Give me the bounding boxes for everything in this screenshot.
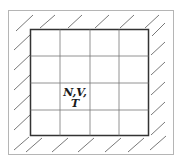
ensemble-diagram: N,V, T — [0, 0, 178, 165]
system-box — [31, 30, 149, 136]
system-label-line2: T — [71, 97, 80, 110]
